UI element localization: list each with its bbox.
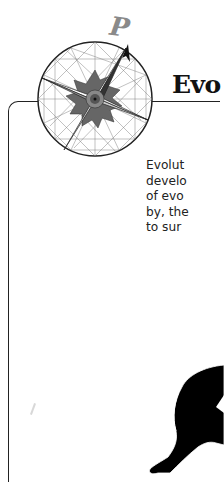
body-paragraph: Evolut develo of evo by, the to sur [146,158,189,236]
body-line: develo [146,174,189,190]
heading-rule [150,101,220,102]
ape-silhouette-icon [144,365,224,475]
page-frame-border [8,101,39,482]
compass-rose-icon [36,40,154,158]
body-line: to sur [146,220,189,236]
chapter-heading: Evo [172,70,221,99]
body-line: Evolut [146,158,189,174]
body-line: of evo [146,189,189,205]
logo-letter: P [108,11,132,43]
body-line: by, the [146,205,189,221]
